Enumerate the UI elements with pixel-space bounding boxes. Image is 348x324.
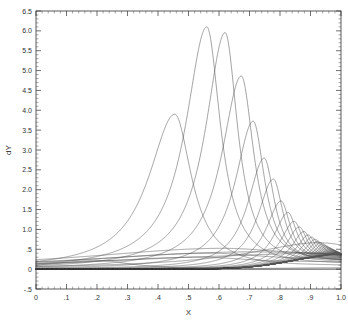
x-tick-label: .7 <box>247 294 253 301</box>
x-tick-label: 0 <box>34 294 38 301</box>
y-tick-label: 3.0 <box>22 147 32 154</box>
y-tick-label: 4.0 <box>22 107 32 114</box>
y-tick-label: 6.0 <box>22 27 32 34</box>
x-tick-label: .6 <box>216 294 222 301</box>
chart-background <box>0 0 348 324</box>
y-tick-label: 3.5 <box>22 127 32 134</box>
y-tick-label: 6.5 <box>22 8 32 15</box>
y-tick-label: 2.5 <box>22 166 32 173</box>
y-tick-label: 1.0 <box>22 226 32 233</box>
x-tick-label: .3 <box>125 294 131 301</box>
chart-container: -.50.51.01.52.02.53.03.54.04.55.05.56.06… <box>0 0 348 324</box>
y-tick-label: 1.5 <box>22 206 32 213</box>
x-tick-label: .5 <box>186 294 192 301</box>
x-tick-label: .4 <box>155 294 161 301</box>
x-tick-label: .1 <box>64 294 70 301</box>
x-tick-label: .2 <box>94 294 100 301</box>
x-axis-title: X <box>186 308 192 317</box>
y-tick-label: 2.0 <box>22 186 32 193</box>
x-tick-label: 1.0 <box>336 294 346 301</box>
y-tick-label: 4.5 <box>22 87 32 94</box>
y-axis-title: dY <box>4 144 13 154</box>
y-tick-label: 5.0 <box>22 67 32 74</box>
y-tick-label: .5 <box>26 246 32 253</box>
line-chart-plot: -.50.51.01.52.02.53.03.54.04.55.05.56.06… <box>0 0 348 324</box>
y-tick-label: 5.5 <box>22 47 32 54</box>
y-tick-label: -.5 <box>24 286 32 293</box>
x-tick-label: .8 <box>277 294 283 301</box>
y-tick-label: 0 <box>28 266 32 273</box>
x-tick-label: .9 <box>308 294 314 301</box>
